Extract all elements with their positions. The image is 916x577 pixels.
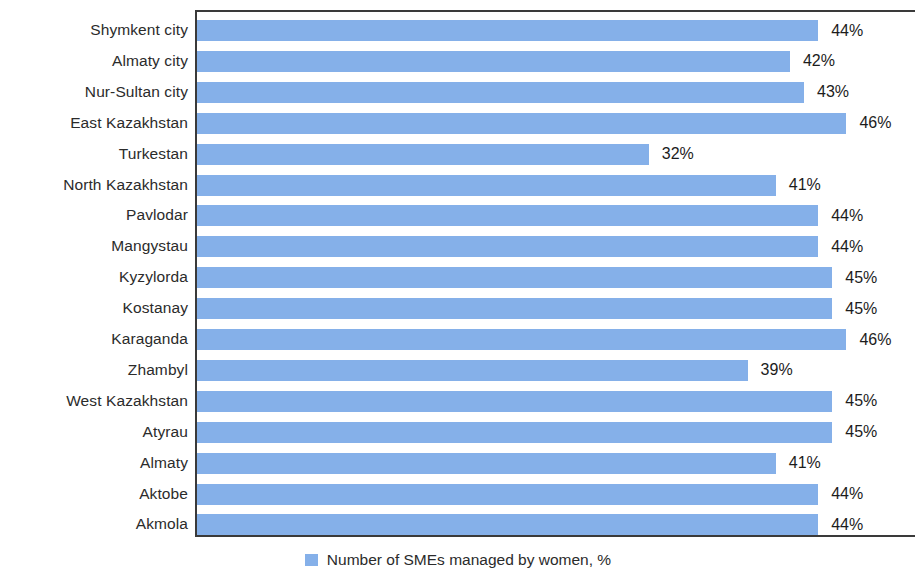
bar-row: 39% — [197, 360, 915, 381]
bar-row: 42% — [197, 51, 915, 72]
bar-row: 44% — [197, 205, 915, 226]
bar — [197, 175, 776, 196]
bar-row: 46% — [197, 113, 915, 134]
bar-value-label: 44% — [831, 238, 863, 256]
bar-value-label: 45% — [845, 392, 877, 410]
bar-value-label: 44% — [831, 207, 863, 225]
bar-row: 45% — [197, 422, 915, 443]
category-label: East Kazakhstan — [0, 112, 188, 133]
bar-value-label: 44% — [831, 485, 863, 503]
bar-row: 41% — [197, 453, 915, 474]
bar — [197, 484, 818, 505]
bar-row: 44% — [197, 514, 915, 535]
bar-value-label: 32% — [662, 145, 694, 163]
category-label: Kostanay — [0, 297, 188, 318]
category-label: Almaty — [0, 452, 188, 473]
bar-value-label: 46% — [859, 331, 891, 349]
category-label: Karaganda — [0, 328, 188, 349]
bar — [197, 514, 818, 535]
bar-value-label: 46% — [859, 114, 891, 132]
bar-row: 44% — [197, 236, 915, 257]
bar-value-label: 43% — [817, 83, 849, 101]
bar-value-label: 45% — [845, 300, 877, 318]
bar-row: 41% — [197, 175, 915, 196]
bar — [197, 82, 804, 103]
category-label: Kyzylorda — [0, 266, 188, 287]
bar — [197, 391, 832, 412]
bar-value-label: 44% — [831, 516, 863, 534]
category-label: Zhambyl — [0, 359, 188, 380]
bar-row: 45% — [197, 267, 915, 288]
bar-value-label: 39% — [761, 361, 793, 379]
bar-value-label: 45% — [845, 269, 877, 287]
bar-row: 44% — [197, 20, 915, 41]
bar-value-label: 45% — [845, 423, 877, 441]
category-label: Nur-Sultan city — [0, 81, 188, 102]
bar-row: 44% — [197, 484, 915, 505]
bar-value-label: 41% — [789, 454, 821, 472]
legend-label: Number of SMEs managed by women, % — [327, 551, 611, 569]
bar — [197, 360, 748, 381]
bar — [197, 329, 846, 350]
category-label: North Kazakhstan — [0, 174, 188, 195]
bar-row: 45% — [197, 391, 915, 412]
bar-row: 43% — [197, 82, 915, 103]
category-label: Atyrau — [0, 421, 188, 442]
category-label: Akmola — [0, 513, 188, 534]
bar-value-label: 42% — [803, 52, 835, 70]
bar — [197, 20, 818, 41]
bar — [197, 51, 790, 72]
bar-value-label: 41% — [789, 176, 821, 194]
bar-row: 32% — [197, 144, 915, 165]
category-label: Aktobe — [0, 483, 188, 504]
legend-swatch-icon — [305, 554, 318, 566]
bar — [197, 298, 832, 319]
bar — [197, 144, 649, 165]
bar — [197, 267, 832, 288]
bar-row: 46% — [197, 329, 915, 350]
bar — [197, 422, 832, 443]
bar-value-label: 44% — [831, 22, 863, 40]
bar — [197, 236, 818, 257]
plot-area: 44%42%43%46%32%41%44%44%45%45%46%39%45%4… — [195, 10, 915, 537]
category-label: Almaty city — [0, 50, 188, 71]
category-label: Pavlodar — [0, 204, 188, 225]
bar — [197, 205, 818, 226]
chart-legend: Number of SMEs managed by women, % — [0, 547, 916, 573]
category-label: West Kazakhstan — [0, 390, 188, 411]
category-label: Shymkent city — [0, 19, 188, 40]
category-label: Mangystau — [0, 235, 188, 256]
bar — [197, 453, 776, 474]
bar — [197, 113, 846, 134]
bar-row: 45% — [197, 298, 915, 319]
category-label: Turkestan — [0, 143, 188, 164]
bar-chart-figure: Shymkent cityAlmaty cityNur-Sultan cityE… — [0, 0, 916, 577]
category-axis: Shymkent cityAlmaty cityNur-Sultan cityE… — [0, 10, 188, 537]
